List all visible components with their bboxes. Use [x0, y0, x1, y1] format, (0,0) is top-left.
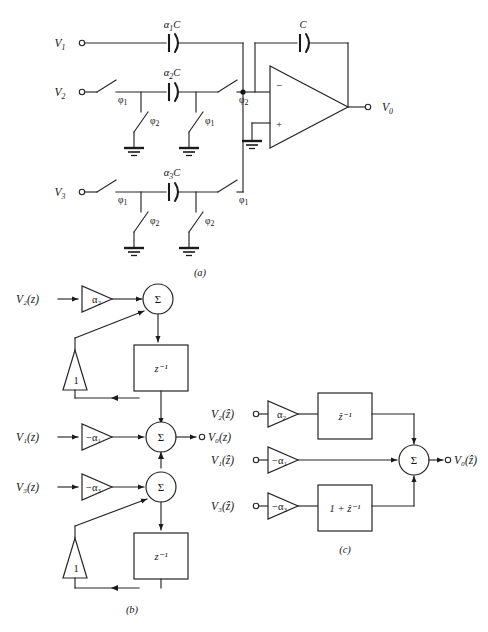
panel-b-v1-input-label: V₁(z): [16, 431, 39, 444]
opamp-inverting-sign: −: [276, 79, 282, 91]
panel-c-gain-alpha2-label: α₂: [277, 409, 287, 420]
panel-c-v0-terminal: [445, 457, 450, 462]
panel-b-summer-middle-label: Σ: [158, 431, 164, 443]
v2-terminal: [79, 89, 84, 94]
panel-a-label: (a): [194, 267, 207, 279]
technical-figure: V1 α1C V2 φ1 α2C: [0, 0, 488, 632]
panel-b-summer-bottom-label: Σ: [158, 481, 164, 493]
v0-subscript: 0: [389, 107, 393, 116]
panel-b-gain-neg-alpha3-label: −α₃: [86, 482, 101, 493]
panel-b-summer-top-label: Σ: [155, 293, 161, 305]
panel-c-v0-output-label: V₀(ẑ): [454, 454, 477, 467]
panel-c-gain-neg-alpha3-label: −α₃: [272, 501, 287, 512]
panel-b-v3-input-label: V₃(z): [16, 481, 39, 494]
panel-c-v1-terminal: [253, 457, 258, 462]
figure-root: V1 α1C V2 φ1 α2C: [0, 0, 488, 632]
panel-b-v0-terminal: [199, 434, 204, 439]
panel-c-v2-terminal: [253, 411, 258, 416]
v2-subscript: 2: [62, 92, 66, 101]
v1-subscript: 1: [62, 43, 66, 52]
panel-b-summer-top: Σ: [143, 284, 173, 314]
v3-terminal: [79, 189, 84, 194]
v3-subscript: 3: [61, 192, 66, 201]
panel-c-one-plus-delay-label: 1 + ẑ⁻¹: [330, 503, 361, 514]
v1-terminal: [79, 40, 84, 45]
panel-c-v3-terminal: [253, 503, 258, 508]
v0-terminal: [365, 104, 370, 109]
panel-b-v0-output-label: V₀(z): [208, 431, 231, 444]
panel-b-gain-alpha2-label: α₂: [92, 294, 102, 305]
panel-b-label: (b): [126, 604, 139, 616]
panel-c-gain-neg-alpha1-label: −α₁: [272, 455, 287, 466]
panel-c-v3-input-label: V₃(ẑ): [211, 500, 234, 513]
panel-b-gain-neg-alpha1-label: −α₁: [86, 432, 101, 443]
panel-b-delay-top-label: z⁻¹: [153, 363, 167, 374]
panel-b-gain-unity-bottom-label: 1: [73, 563, 78, 574]
panel-b-v2-input-label: V₂(z): [16, 293, 39, 306]
panel-b-delay-bottom-label: z⁻¹: [153, 551, 167, 562]
capacitor-feedback-C-label: C: [299, 19, 307, 30]
panel-c-v1-input-label: V₁(ẑ): [211, 454, 234, 467]
opamp-noninverting-sign: +: [276, 118, 282, 130]
panel-c-summer-label: Σ: [411, 454, 417, 466]
panel-c-v2-input-label: V₂(ẑ): [211, 408, 234, 421]
panel-c-delay-hat-label: ẑ⁻¹: [337, 411, 351, 422]
panel-b-gain-unity-top-label: 1: [73, 375, 78, 386]
panel-c-label: (c): [339, 544, 351, 556]
